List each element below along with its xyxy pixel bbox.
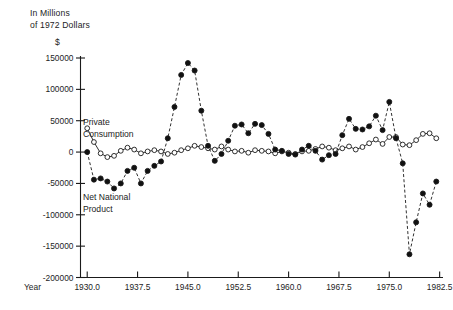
- data-point-filled: [192, 68, 197, 73]
- data-point-open: [98, 151, 103, 156]
- data-point-filled: [347, 116, 352, 121]
- data-point-filled: [367, 124, 372, 129]
- data-point-filled: [91, 177, 96, 182]
- data-point-filled: [138, 181, 143, 186]
- data-point-filled: [259, 123, 264, 128]
- data-point-open: [360, 145, 365, 150]
- y-tick-label: 0: [0, 147, 74, 157]
- data-point-open: [340, 146, 345, 151]
- data-point-filled: [407, 252, 412, 257]
- data-point-open: [400, 142, 405, 147]
- data-point-filled: [313, 148, 318, 153]
- data-point-filled: [279, 148, 284, 153]
- y-tick-label: -200000: [0, 273, 74, 283]
- data-point-open: [367, 141, 372, 146]
- data-point-open: [427, 131, 432, 136]
- data-point-open: [347, 144, 352, 149]
- data-point-open: [219, 144, 224, 149]
- data-point-open: [434, 136, 439, 141]
- x-tick-label: 1960.0: [276, 282, 302, 292]
- data-point-open: [233, 149, 238, 154]
- data-point-open: [326, 145, 331, 150]
- data-point-filled: [286, 151, 291, 156]
- data-point-filled: [306, 143, 311, 148]
- data-point-filled: [380, 128, 385, 133]
- axis-ticks: [76, 58, 440, 278]
- x-tick-label: 1945.0: [175, 282, 201, 292]
- data-point-filled: [340, 133, 345, 138]
- data-point-open: [212, 147, 217, 152]
- data-point-filled: [132, 165, 137, 170]
- data-series: [85, 61, 439, 257]
- data-point-open: [139, 151, 144, 156]
- series-private-consumption: [85, 126, 439, 160]
- data-point-filled: [373, 113, 378, 118]
- y-tick-label: 100000: [0, 84, 74, 94]
- data-point-filled: [165, 136, 170, 141]
- data-point-filled: [219, 151, 224, 156]
- x-tick-label: 1952.5: [225, 282, 251, 292]
- data-point-open: [145, 149, 150, 154]
- data-point-filled: [118, 181, 123, 186]
- data-point-open: [172, 150, 177, 155]
- x-tick-label: 1982.5: [427, 282, 453, 292]
- data-point-open: [253, 148, 258, 153]
- data-point-filled: [253, 121, 258, 126]
- data-point-filled: [400, 161, 405, 166]
- data-point-filled: [239, 122, 244, 127]
- y-tick-label: 150000: [0, 53, 74, 63]
- y-tick-label: -50000: [0, 178, 74, 188]
- chart-figure: In Millions of 1972 Dollars $ Year Priva…: [0, 0, 453, 310]
- data-point-filled: [159, 159, 164, 164]
- data-point-filled: [145, 168, 150, 173]
- y-tick-label: -100000: [0, 210, 74, 220]
- x-tick-label: 1975.0: [376, 282, 402, 292]
- data-point-open: [165, 152, 170, 157]
- data-point-open: [159, 149, 164, 154]
- data-point-open: [105, 155, 110, 160]
- data-point-open: [132, 147, 137, 152]
- data-point-open: [152, 148, 157, 153]
- data-point-open: [320, 144, 325, 149]
- data-point-open: [186, 146, 191, 151]
- data-point-filled: [266, 131, 271, 136]
- y-tick-label: 50000: [0, 116, 74, 126]
- data-point-filled: [226, 138, 231, 143]
- x-tick-label: 1930.0: [74, 282, 100, 292]
- data-point-open: [387, 135, 392, 140]
- data-point-filled: [232, 123, 237, 128]
- data-point-open: [266, 149, 271, 154]
- data-point-open: [239, 148, 244, 153]
- x-tick-label: 1967.5: [326, 282, 352, 292]
- data-point-open: [199, 145, 204, 150]
- data-point-filled: [320, 157, 325, 162]
- data-point-filled: [246, 131, 251, 136]
- data-point-filled: [85, 150, 90, 155]
- data-point-filled: [273, 147, 278, 152]
- data-point-filled: [206, 143, 211, 148]
- data-point-filled: [98, 176, 103, 181]
- data-point-filled: [353, 126, 358, 131]
- data-point-open: [118, 148, 123, 153]
- data-point-filled: [434, 179, 439, 184]
- data-point-filled: [387, 99, 392, 104]
- data-point-filled: [427, 202, 432, 207]
- data-point-open: [92, 140, 97, 145]
- data-point-open: [125, 145, 130, 150]
- data-point-filled: [112, 186, 117, 191]
- y-tick-label: -150000: [0, 241, 74, 251]
- data-point-filled: [333, 151, 338, 156]
- data-point-filled: [125, 168, 130, 173]
- data-point-filled: [152, 163, 157, 168]
- data-point-open: [306, 148, 311, 153]
- data-point-filled: [360, 127, 365, 132]
- data-point-open: [373, 137, 378, 142]
- data-point-filled: [326, 153, 331, 158]
- data-point-filled: [179, 72, 184, 77]
- data-point-filled: [420, 191, 425, 196]
- data-point-open: [420, 131, 425, 136]
- data-point-filled: [199, 108, 204, 113]
- data-point-open: [85, 126, 90, 131]
- data-point-filled: [172, 104, 177, 109]
- data-point-filled: [212, 158, 217, 163]
